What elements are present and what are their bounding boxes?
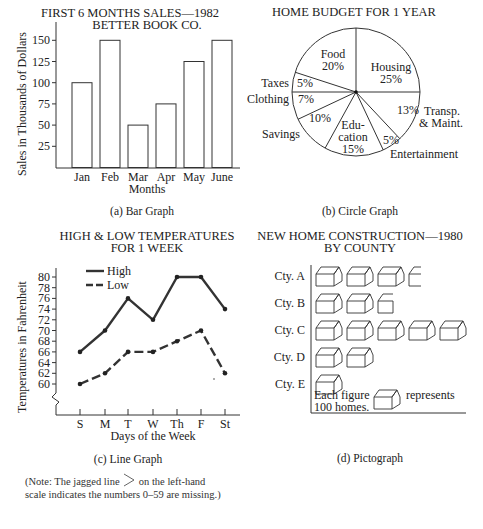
pie-value-savings: 10% xyxy=(309,111,331,125)
bar-jan xyxy=(72,83,92,168)
house-icon xyxy=(440,321,466,340)
pictograph-caption: (d) Pictograph xyxy=(337,452,403,465)
bar-y-ticks: 255075100125150 xyxy=(32,33,56,153)
axis-break-note: (Note: The jagged line on the left-hand … xyxy=(25,473,225,501)
jagged-line-icon xyxy=(122,473,136,487)
pictograph-rows: Cty. ACty. BCty. CCty. DCty. E xyxy=(274,267,466,394)
line-chart-subtitle: FOR 1 WEEK xyxy=(111,241,184,255)
house-icon xyxy=(316,321,342,340)
bar-y-tick-label: 125 xyxy=(32,55,50,69)
line-chart-x-label: Days of the Week xyxy=(110,429,195,443)
pie-value-education: 15% xyxy=(342,142,364,156)
bar-feb xyxy=(100,40,120,167)
pictograph-row-label: Cty. B xyxy=(274,296,305,310)
bar-y-tick-label: 50 xyxy=(38,118,50,132)
bar-chart-y-label: Sales in Thousands of Dollars xyxy=(15,32,29,176)
line-y-ticks: 6062646668707274767880 xyxy=(38,270,56,391)
figure-canvas: FIRST 6 MONTHS SALES—1982 BETTER BOOK CO… xyxy=(0,0,483,529)
bar-y-tick-label: 25 xyxy=(38,139,50,153)
series-low xyxy=(80,331,225,385)
pictograph-row-label: Cty. A xyxy=(274,269,305,283)
legend-low-label: Low xyxy=(107,278,129,292)
bar-x-tick-label: May xyxy=(183,170,205,184)
pictograph-row-label: Cty. D xyxy=(274,350,306,364)
pie-label-clothing: Clothing xyxy=(247,92,289,106)
bar-x-tick-label: Jan xyxy=(74,170,90,184)
line-x-tick-label: S xyxy=(77,417,84,431)
pie-value-clothing: 7% xyxy=(298,92,314,106)
pie-label-taxes: Taxes xyxy=(261,76,289,90)
pictograph: NEW HOME CONSTRUCTION—1980 BY COUNTY Cty… xyxy=(257,229,466,465)
pie-chart-caption: (b) Circle Graph xyxy=(322,205,398,218)
bar-chart-subtitle: BETTER BOOK CO. xyxy=(92,18,201,32)
house-icon xyxy=(378,321,404,340)
pictograph-row-label: Cty. E xyxy=(275,377,305,391)
house-icon xyxy=(347,267,373,286)
pie-chart-title: HOME BUDGET FOR 1 YEAR xyxy=(272,5,437,19)
pictograph-row-label: Cty. C xyxy=(274,323,305,337)
line-x-tick-label: F xyxy=(198,417,205,431)
house-icon xyxy=(347,294,373,313)
pie-value-taxes: 5% xyxy=(297,76,313,90)
house-icon xyxy=(347,321,373,340)
pictograph-key-line2: 100 homes. xyxy=(314,400,369,414)
pictograph-key-house-icon xyxy=(374,390,400,409)
partial-house-icon xyxy=(378,294,393,313)
pie-value-food: 20% xyxy=(322,59,344,73)
house-icon xyxy=(316,348,342,367)
line-chart-y-label: Temperatures in Fahrenheit xyxy=(15,280,29,412)
house-icon xyxy=(378,267,404,286)
house-icon xyxy=(316,294,342,313)
bar-y-tick-label: 75 xyxy=(38,97,50,111)
bar-apr xyxy=(156,104,176,168)
note-text-start: (Note: The jagged line xyxy=(25,476,120,487)
pie-value-transp: 13% xyxy=(397,103,419,117)
bar-may xyxy=(184,62,204,168)
pie-label-entertainment: Entertainment xyxy=(390,147,459,161)
line-chart-caption: (c) Line Graph xyxy=(94,453,163,466)
legend-high-label: High xyxy=(107,264,131,278)
pie-center xyxy=(354,90,358,94)
house-icon xyxy=(347,348,373,367)
bar-bars xyxy=(72,40,232,167)
bar-mar xyxy=(128,125,148,167)
pie-chart: HOME BUDGET FOR 1 YEAR Food 20% Housing … xyxy=(247,5,463,218)
house-icon xyxy=(316,267,342,286)
bar-june xyxy=(212,40,232,167)
line-x-tick-label: St xyxy=(220,417,231,431)
bar-x-tick-label: Feb xyxy=(101,170,119,184)
bar-y-tick-label: 150 xyxy=(32,33,50,47)
pictograph-key-suffix: represents xyxy=(406,388,455,402)
bar-chart: FIRST 6 MONTHS SALES—1982 BETTER BOOK CO… xyxy=(15,6,240,218)
pictograph-subtitle: BY COUNTY xyxy=(324,241,396,255)
bar-y-tick-label: 100 xyxy=(32,76,50,90)
series-high xyxy=(80,277,225,352)
pie-value-housing: 25% xyxy=(380,72,402,86)
line-y-tick-label: 80 xyxy=(38,270,50,284)
bar-x-tick-label: June xyxy=(211,170,233,184)
bar-chart-x-label: Months xyxy=(129,182,166,196)
bar-chart-caption: (a) Bar Graph xyxy=(110,205,174,218)
line-chart: HIGH & LOW TEMPERATURES FOR 1 WEEK Tempe… xyxy=(15,229,240,466)
line-series xyxy=(78,275,228,387)
line-legend: High Low xyxy=(86,264,131,292)
house-icon xyxy=(409,321,435,340)
line-x-tick-label: M xyxy=(100,417,111,431)
line-x-ticks: SMTWThFSt xyxy=(77,409,231,431)
pie-label-transp-2: & Maint. xyxy=(419,116,463,130)
partial-house-icon xyxy=(409,267,421,286)
pie-value-entertainment: 5% xyxy=(383,133,399,147)
pie-label-savings: Savings xyxy=(262,127,300,141)
